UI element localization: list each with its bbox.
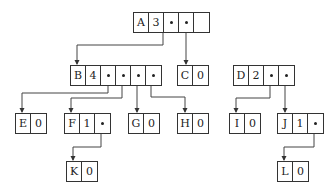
node-label: H [178, 114, 193, 133]
pointer-dot-icon [285, 74, 288, 77]
pointer-cell [146, 66, 161, 85]
child-count: 0 [293, 162, 308, 181]
child-count: 0 [193, 66, 208, 85]
pointer-dot-icon [107, 74, 110, 77]
node-label: L [278, 162, 293, 181]
node-h: H0 [177, 113, 209, 134]
node-i: I0 [229, 113, 261, 134]
node-label: B [71, 66, 86, 85]
node-label: E [16, 114, 31, 133]
pointer-cell [164, 13, 179, 32]
pointer-dot-icon [314, 122, 317, 125]
node-label: F [65, 114, 80, 133]
child-count: 0 [31, 114, 46, 133]
pointer-dot-icon [101, 122, 104, 125]
node-e: E0 [15, 113, 47, 134]
pointer-cell [95, 114, 110, 133]
pointer-dot-icon [122, 74, 125, 77]
child-count: 3 [149, 13, 164, 32]
node-label: J [278, 114, 293, 133]
pointer-cell [308, 114, 323, 133]
pointer-cell [179, 13, 194, 32]
node-label: I [230, 114, 245, 133]
pointer-cell [116, 66, 131, 85]
node-j: J1 [277, 113, 324, 134]
node-g: G0 [128, 113, 160, 134]
child-count: 0 [82, 162, 97, 181]
pointer-dot-icon [185, 21, 188, 24]
node-l: L0 [277, 161, 309, 182]
node-label: A [134, 13, 149, 32]
node-label: G [129, 114, 144, 133]
node-d: D2 [233, 65, 295, 86]
child-count: 4 [86, 66, 101, 85]
child-count: 1 [293, 114, 308, 133]
node-b: B4 [70, 65, 162, 86]
child-count: 0 [245, 114, 260, 133]
node-a: A3 [133, 12, 210, 33]
child-count: 1 [80, 114, 95, 133]
node-label: D [234, 66, 249, 85]
node-c: C0 [177, 65, 209, 86]
pointer-dot-icon [152, 74, 155, 77]
pointer-cell [279, 66, 294, 85]
node-label: K [67, 162, 82, 181]
pointer-dot-icon [170, 21, 173, 24]
node-f: F1 [64, 113, 111, 134]
pointer-dot-icon [137, 74, 140, 77]
node-label: C [178, 66, 193, 85]
pointer-cell [131, 66, 146, 85]
pointer-dot-icon [270, 74, 273, 77]
node-k: K0 [66, 161, 98, 182]
child-count: 0 [144, 114, 159, 133]
pointer-cell [264, 66, 279, 85]
child-count: 2 [249, 66, 264, 85]
empty-cell [194, 13, 209, 32]
child-count: 0 [193, 114, 208, 133]
pointer-cell [101, 66, 116, 85]
